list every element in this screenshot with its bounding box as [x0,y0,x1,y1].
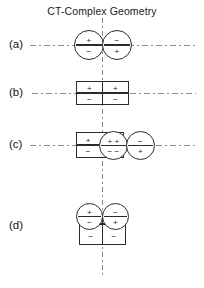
row-b-rect-right-bottom-sign: − [103,96,128,104]
row-d-circle-right-top-sign: − [103,209,128,217]
row-c-circle-left: + + − − [99,131,128,160]
row-d-circle-right: − + [102,203,129,230]
row-a-circle-right-top-sign: − [103,37,131,45]
row-b-rect-right-top-sign: + [103,85,128,93]
row-c-rect-divider [77,144,99,145]
row-c-circle-right-bottom-sign: + [127,148,154,156]
row-d-circle-left-top-sign: + [77,209,102,217]
row-c-circle-left-bottom-sign: − − [100,148,127,156]
row-c-circle-right-top-sign: − [127,138,154,146]
row-label-c: (c) [9,138,22,150]
row-b-rect-right: + − [102,81,129,105]
row-d-circle-left: + − [76,203,103,230]
row-c-rect-top-sign: + [77,137,99,145]
row-b-rect-left: + − [76,81,103,105]
row-d-circle-right-bottom-sign: + [103,219,128,227]
row-a-circle-left-top-sign: + [75,37,103,45]
ct-complex-geometry-figure: CT-Complex Geometry (a) + − − + (b) + − … [0,0,204,288]
row-a-circle-right: − + [102,30,132,60]
figure-title: CT-Complex Geometry [0,5,204,17]
row-label-d: (d) [9,219,23,231]
row-label-a: (a) [9,38,23,50]
row-b-rect-left-top-sign: + [77,85,102,93]
row-d-rect-left-bottom-sign: − [80,233,102,241]
row-d-circle-left-bottom-sign: − [77,219,102,227]
row-a-circle-left: + − [74,30,104,60]
row-a-circle-left-bottom-sign: − [75,48,103,56]
row-c-circle-left-top-sign: + + [100,138,127,146]
row-a-circle-right-bottom-sign: + [103,48,131,56]
row-c-rect-bottom-sign: − [77,148,99,156]
row-b-rect-left-bottom-sign: − [77,96,102,104]
row-label-b: (b) [9,86,23,98]
row-d-rect-right-bottom-sign: − [103,233,125,241]
row-c-circle-right: − + [126,131,155,160]
